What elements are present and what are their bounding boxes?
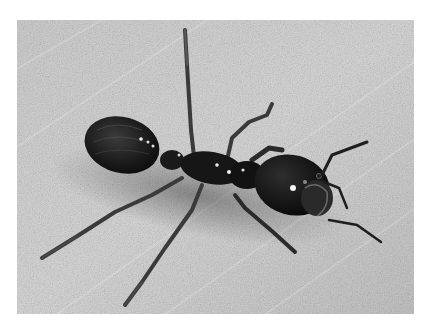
ant-petiole <box>160 150 184 170</box>
ant-photo <box>17 20 414 314</box>
page <box>0 0 434 330</box>
ant-illustration <box>17 20 414 314</box>
